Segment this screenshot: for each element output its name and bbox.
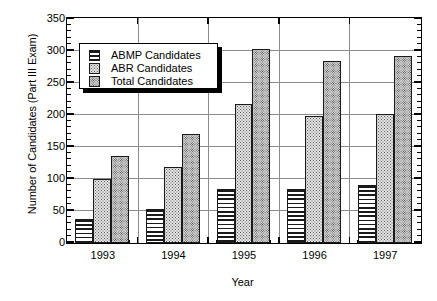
- x-axis-tick: [349, 237, 351, 243]
- legend-label-total: Total Candidates: [111, 76, 193, 87]
- y-axis-minor-tick: [67, 30, 71, 31]
- y-axis-minor-tick-right: [417, 43, 421, 44]
- legend-label-abr: ABR Candidates: [111, 63, 192, 74]
- y-axis-minor-tick: [67, 56, 71, 57]
- y-axis-minor-tick-right: [417, 171, 421, 172]
- y-axis-major-tick: [67, 17, 74, 19]
- y-axis-minor-tick: [67, 171, 71, 172]
- y-axis-minor-tick: [67, 133, 71, 134]
- x-axis-tick-label: 1994: [143, 249, 203, 261]
- y-axis-major-tick: [67, 113, 74, 115]
- y-axis-major-tick-right: [414, 49, 421, 51]
- y-axis-minor-tick: [67, 139, 71, 140]
- y-axis-minor-tick: [67, 37, 71, 38]
- y-axis-major-tick: [67, 49, 74, 51]
- y-axis-minor-tick-right: [417, 133, 421, 134]
- x-axis-tick-label: 1995: [214, 249, 274, 261]
- y-axis-tick-label: 300: [25, 45, 65, 56]
- y-axis-major-tick: [67, 177, 74, 179]
- y-axis-tick-label: 0: [25, 237, 65, 248]
- bar-total-1994: [182, 134, 200, 243]
- legend-item-total: Total Candidates: [89, 75, 193, 88]
- legend-box: ABMP Candidates ABR Candidates Total Can…: [79, 43, 218, 89]
- y-axis-major-tick-right: [414, 17, 421, 19]
- y-axis-minor-tick-right: [417, 88, 421, 89]
- y-axis-minor-tick-right: [417, 229, 421, 230]
- y-axis-minor-tick-right: [417, 120, 421, 121]
- y-axis-major-tick: [67, 81, 74, 83]
- bar-total-1995: [252, 49, 270, 243]
- bar-abr-1994: [164, 167, 182, 243]
- y-axis-major-tick-right: [414, 209, 421, 211]
- y-axis-tick-label: 350: [25, 13, 65, 24]
- y-axis-minor-tick-right: [417, 152, 421, 153]
- y-axis-major-tick-right: [414, 145, 421, 147]
- y-axis-minor-tick: [67, 107, 71, 108]
- y-axis-minor-tick: [67, 152, 71, 153]
- bar-total-1996: [323, 61, 341, 243]
- bar-abmp-1995: [217, 189, 235, 243]
- x-axis-tick-label: 1996: [285, 249, 345, 261]
- y-axis-tick-label: 50: [25, 205, 65, 216]
- y-axis-minor-tick: [67, 62, 71, 63]
- y-axis-major-tick-right: [414, 81, 421, 83]
- x-axis-tick-top: [207, 18, 209, 24]
- y-axis-minor-tick: [67, 24, 71, 25]
- y-axis-minor-tick: [67, 184, 71, 185]
- y-axis-major-tick-right: [414, 113, 421, 115]
- bar-chart-figure: Number of Candidates (Part III Exam) Yea…: [0, 0, 437, 301]
- x-axis-tick-top: [349, 18, 351, 24]
- y-axis-minor-tick: [67, 197, 71, 198]
- y-axis-minor-tick-right: [417, 197, 421, 198]
- y-axis-minor-tick-right: [417, 139, 421, 140]
- y-axis-minor-tick: [67, 203, 71, 204]
- y-axis-minor-tick-right: [417, 235, 421, 236]
- bar-abr-1993: [93, 179, 111, 243]
- bar-abmp-1994: [146, 209, 164, 243]
- y-axis-minor-tick: [67, 126, 71, 127]
- y-axis-minor-tick: [67, 75, 71, 76]
- bar-abmp-1997: [358, 185, 376, 243]
- chart-legend: ABMP Candidates ABR Candidates Total Can…: [79, 43, 222, 93]
- legend-label-abmp: ABMP Candidates: [111, 50, 201, 61]
- bar-abr-1995: [235, 104, 253, 243]
- y-axis-minor-tick: [67, 190, 71, 191]
- x-axis-tick-label: 1997: [355, 249, 415, 261]
- y-axis-minor-tick-right: [417, 24, 421, 25]
- x-axis-tick-top: [278, 18, 280, 24]
- y-axis-minor-tick: [67, 69, 71, 70]
- y-axis-minor-tick-right: [417, 56, 421, 57]
- x-axis-tick: [207, 237, 209, 243]
- y-axis-tick-label: 100: [25, 173, 65, 184]
- bar-abmp-1996: [287, 189, 305, 243]
- legend-item-abmp: ABMP Candidates: [89, 49, 201, 62]
- bar-abmp-1993: [75, 219, 93, 243]
- y-axis-minor-tick-right: [417, 107, 421, 108]
- y-axis-minor-tick-right: [417, 222, 421, 223]
- y-axis-major-tick: [67, 145, 74, 147]
- y-axis-minor-tick-right: [417, 158, 421, 159]
- y-axis-minor-tick-right: [417, 203, 421, 204]
- x-axis-tick-label: 1993: [73, 249, 133, 261]
- y-axis-minor-tick-right: [417, 165, 421, 166]
- x-axis-title: Year: [55, 276, 430, 288]
- y-axis-minor-tick-right: [417, 69, 421, 70]
- y-axis-minor-tick: [67, 94, 71, 95]
- y-axis-major-tick: [67, 241, 74, 243]
- y-axis-minor-tick-right: [417, 190, 421, 191]
- y-axis-minor-tick: [67, 88, 71, 89]
- legend-swatch-abmp-icon: [89, 50, 100, 61]
- bar-total-1993: [111, 156, 129, 243]
- y-axis-tick-label: 150: [25, 141, 65, 152]
- y-axis-minor-tick: [67, 216, 71, 217]
- y-axis-minor-tick: [67, 101, 71, 102]
- y-axis-minor-tick-right: [417, 94, 421, 95]
- y-axis-major-tick-right: [414, 177, 421, 179]
- y-axis-tick-label: 250: [25, 77, 65, 88]
- y-axis-tick-label: 200: [25, 109, 65, 120]
- x-axis-tick: [278, 237, 280, 243]
- vertical-gridline: [349, 18, 350, 243]
- y-axis-minor-tick-right: [417, 216, 421, 217]
- y-axis-minor-tick-right: [417, 37, 421, 38]
- legend-swatch-abr-icon: [89, 63, 100, 74]
